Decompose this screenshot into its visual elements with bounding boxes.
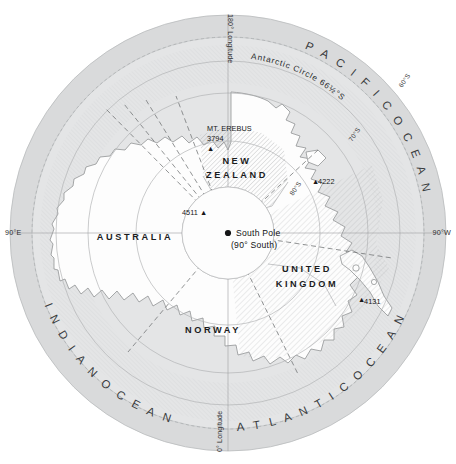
peak-marker-mt-erebus: ▲ <box>207 144 214 153</box>
south-pole-marker <box>225 230 231 236</box>
claim-label-new-zealand-line2: ZEALAND <box>206 170 268 180</box>
claim-label-united-kingdom-line2: KINGDOM <box>276 279 339 289</box>
peak-label-mt-erebus-name: MT. EREBUS <box>207 124 252 133</box>
island-small-1 <box>353 265 359 271</box>
peak-label-4131: 4131 <box>364 297 381 306</box>
south-pole-name: South Pole <box>236 228 281 238</box>
longitude-label-0: 0° Longitude <box>216 411 224 452</box>
peak-label-mt-erebus-elevation: 3794 <box>207 134 224 143</box>
claim-label-australia: AUSTRALIA <box>97 232 173 242</box>
claim-label-united-kingdom-line1: UNITED <box>282 264 332 274</box>
peak-label-4511: 4511 <box>182 208 198 217</box>
longitude-label-90e: 90°E <box>5 228 21 237</box>
longitude-label-90w: 90°W <box>433 228 451 237</box>
claim-label-new-zealand-line1: NEW <box>222 156 251 166</box>
longitude-label-180: 180° Longitude <box>226 14 234 63</box>
claim-label-norway: NORWAY <box>185 325 241 335</box>
south-pole-coordinate: (90° South) <box>231 240 277 250</box>
antarctica-map-figure: P A C I F I C O C E A N I N D I A N O C … <box>0 0 456 464</box>
peak-marker-4511: ▲ <box>200 208 207 217</box>
peak-label-4222: 4222 <box>318 177 335 186</box>
antarctica-polar-map: P A C I F I C O C E A N I N D I A N O C … <box>0 0 456 464</box>
island-small-2 <box>371 279 376 284</box>
